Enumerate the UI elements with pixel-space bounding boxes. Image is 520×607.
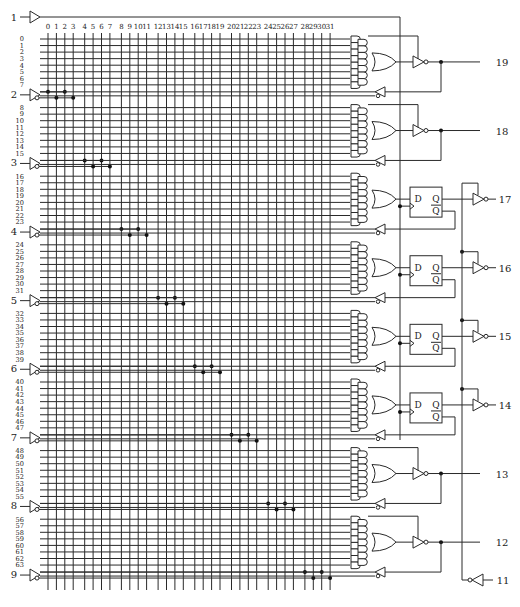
and-gate-icon bbox=[358, 252, 367, 259]
and-gate-icon bbox=[358, 72, 367, 79]
column-label: 19 bbox=[216, 23, 225, 31]
output-pin-label: 18 bbox=[496, 126, 509, 137]
inverter-bubble-icon bbox=[424, 129, 428, 133]
column-label: 27 bbox=[289, 23, 298, 31]
and-gate-icon bbox=[358, 114, 367, 121]
inverter-bubble-icon bbox=[35, 233, 39, 237]
inverter-bubble-icon bbox=[376, 94, 380, 98]
input-pin-label: 5 bbox=[11, 295, 17, 306]
column-label: 15 bbox=[179, 23, 188, 31]
clock-junction-dot bbox=[398, 273, 402, 277]
inverter-bubble-icon bbox=[35, 439, 39, 443]
oe-pin-label: 11 bbox=[497, 575, 510, 586]
and-gate-icon bbox=[358, 402, 367, 409]
and-gate-icon bbox=[358, 422, 367, 429]
and-gate-icon bbox=[358, 477, 367, 484]
and-gate-icon bbox=[358, 108, 367, 115]
fuse-dot bbox=[91, 164, 95, 168]
output-macrocells: 1918DQQ17DQQ16DQQ15DQQ14131211 bbox=[40, 36, 511, 586]
output-pin-label: 14 bbox=[499, 400, 512, 411]
inverter-bubble-icon bbox=[35, 96, 39, 100]
inverter-bubble-icon bbox=[376, 300, 380, 304]
input-pin-label: 7 bbox=[11, 432, 17, 443]
column-label: 2 bbox=[63, 23, 67, 31]
or-gate-icon bbox=[372, 327, 396, 345]
product-term-label: 7 bbox=[20, 81, 24, 89]
column-label: 7 bbox=[108, 23, 112, 31]
and-gate-icon bbox=[358, 190, 367, 197]
and-gate-icon bbox=[358, 559, 367, 566]
or-gate-icon bbox=[372, 533, 396, 551]
column-label: 23 bbox=[252, 23, 261, 31]
fuse-dot bbox=[238, 439, 242, 443]
and-gate-icon bbox=[358, 490, 367, 497]
output-pin-label: 15 bbox=[499, 331, 512, 342]
fuse-dot bbox=[128, 233, 132, 237]
and-gate-icon bbox=[358, 395, 367, 402]
output-pin-label: 16 bbox=[499, 263, 512, 274]
fuse-dot bbox=[311, 576, 315, 580]
or-gate-icon bbox=[372, 465, 396, 483]
input-pin-label: 2 bbox=[11, 89, 17, 100]
and-gate-icon bbox=[358, 128, 367, 135]
inverter-bubble-icon bbox=[376, 574, 380, 578]
clock-junction-dot bbox=[398, 341, 402, 345]
and-gate-icon bbox=[358, 66, 367, 73]
or-gate-icon bbox=[372, 396, 396, 414]
fuse-dot bbox=[108, 164, 112, 168]
and-gate-icon bbox=[358, 46, 367, 53]
fuse-dot bbox=[201, 370, 205, 374]
inverter-bubble-icon bbox=[484, 197, 488, 201]
input-pin-label: 3 bbox=[11, 157, 17, 168]
inverter-bubble-icon bbox=[424, 540, 428, 544]
fuse-grid: 0123456789101112131415161718192021222324… bbox=[16, 23, 350, 590]
inverter-bubble-icon bbox=[376, 437, 380, 441]
inverter-bubble-icon bbox=[484, 334, 488, 338]
inverter-bubble-icon bbox=[376, 506, 380, 510]
inverter-bubble-icon bbox=[376, 368, 380, 372]
ff-q-label: Q bbox=[432, 194, 439, 204]
and-gate-icon bbox=[358, 134, 367, 141]
fuse-dot bbox=[218, 370, 222, 374]
ff-qbar-label: Q bbox=[432, 275, 439, 285]
and-gate-icon bbox=[358, 546, 367, 553]
or-gate-icon bbox=[372, 53, 396, 71]
and-gate-icon bbox=[358, 484, 367, 491]
fuse-dot bbox=[328, 576, 332, 580]
and-gate-icon bbox=[358, 520, 367, 527]
ff-q-label: Q bbox=[432, 331, 439, 341]
ff-d-label: D bbox=[414, 331, 421, 341]
fuse-dot bbox=[71, 96, 75, 100]
column-label: 8 bbox=[119, 23, 123, 31]
output-pin-label: 13 bbox=[496, 469, 509, 480]
inverter-bubble-icon bbox=[376, 163, 380, 167]
inverter-bubble-icon bbox=[35, 370, 39, 374]
inverter-bubble-icon bbox=[484, 403, 488, 407]
fuse-connections bbox=[46, 90, 332, 580]
and-gate-icon bbox=[358, 340, 367, 347]
inverter-bubble-icon bbox=[424, 60, 428, 64]
fuse-dot bbox=[181, 302, 185, 306]
and-gate-icon bbox=[358, 147, 367, 154]
and-gate-icon bbox=[358, 177, 367, 184]
column-label: 9 bbox=[128, 23, 132, 31]
and-gate-icon bbox=[358, 539, 367, 546]
clock-junction-dot bbox=[398, 204, 402, 208]
output-pin-label: 17 bbox=[499, 194, 512, 205]
inverter-bubble-icon bbox=[376, 231, 380, 235]
and-gate-icon bbox=[358, 415, 367, 422]
inverter-bubble-icon bbox=[35, 576, 39, 580]
ff-d-label: D bbox=[414, 263, 421, 273]
inverter-bubble-icon bbox=[35, 302, 39, 306]
and-gate-icon bbox=[358, 196, 367, 203]
and-gate-icon bbox=[358, 265, 367, 272]
and-gate-icon bbox=[358, 121, 367, 128]
fuse-dot bbox=[275, 507, 279, 511]
and-gate-icon bbox=[358, 258, 367, 265]
inverter-bubble-icon bbox=[484, 266, 488, 270]
or-gate-icon bbox=[372, 259, 396, 277]
ff-q-label: Q bbox=[432, 400, 439, 410]
input-pin-label: 8 bbox=[11, 500, 17, 511]
column-label: 5 bbox=[91, 23, 95, 31]
fuse-dot bbox=[54, 96, 58, 100]
